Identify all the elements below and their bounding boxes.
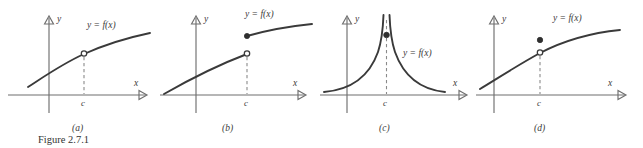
panel-c-label: (c) <box>379 123 390 134</box>
panel-b-x-axis-label: x <box>292 78 298 88</box>
panel-a: y x c y = f(x) (a) <box>8 14 150 134</box>
panel-d: y x c y = f(x) (d) <box>476 13 626 134</box>
panel-c-function-label: y = f(x) <box>402 48 432 59</box>
panel-c-curve-left-branch <box>324 15 384 92</box>
figure-container: y x c y = f(x) (a) y x c y = f(x) (b) <box>0 0 643 148</box>
panel-d-function-label: y = f(x) <box>552 13 582 24</box>
panel-c-x-axis-label: x <box>452 78 458 88</box>
panel-a-label: (a) <box>72 123 83 134</box>
panel-d-open-circle <box>537 50 542 55</box>
panel-d-curve <box>480 30 620 89</box>
panel-b-curve-lower <box>164 54 247 94</box>
panel-c-filled-dot <box>384 32 390 38</box>
panel-d-c-label: c <box>537 98 541 108</box>
panel-b-open-circle <box>244 51 249 56</box>
panel-a-c-label: c <box>81 98 85 108</box>
panel-c-y-axis-label: y <box>354 14 360 24</box>
panel-b-label: (b) <box>222 123 233 134</box>
panel-c-c-label: c <box>383 98 387 108</box>
panel-a-curve <box>28 33 150 87</box>
panel-d-filled-dot <box>537 37 542 42</box>
panel-d-x-axis-label: x <box>607 78 613 88</box>
panel-b: y x c y = f(x) (b) <box>160 9 312 134</box>
panel-c: y x c y = f(x) (c) <box>320 14 467 134</box>
figure-svg: y x c y = f(x) (a) y x c y = f(x) (b) <box>0 0 643 148</box>
panel-a-y-axis-label: y <box>56 14 62 24</box>
figure-caption: Figure 2.7.1 <box>38 134 89 145</box>
panel-d-y-axis-label: y <box>501 14 507 24</box>
panel-a-x-axis-label: x <box>133 78 139 88</box>
panel-b-y-axis-label: y <box>203 14 209 24</box>
panel-b-curve-upper <box>247 24 312 36</box>
panel-a-function-label: y = f(x) <box>86 20 116 31</box>
panel-b-function-label: y = f(x) <box>244 9 274 20</box>
panel-b-c-label: c <box>244 98 248 108</box>
panel-d-label: (d) <box>534 123 545 134</box>
panel-b-filled-dot <box>244 33 249 38</box>
panel-a-open-circle <box>81 51 86 56</box>
